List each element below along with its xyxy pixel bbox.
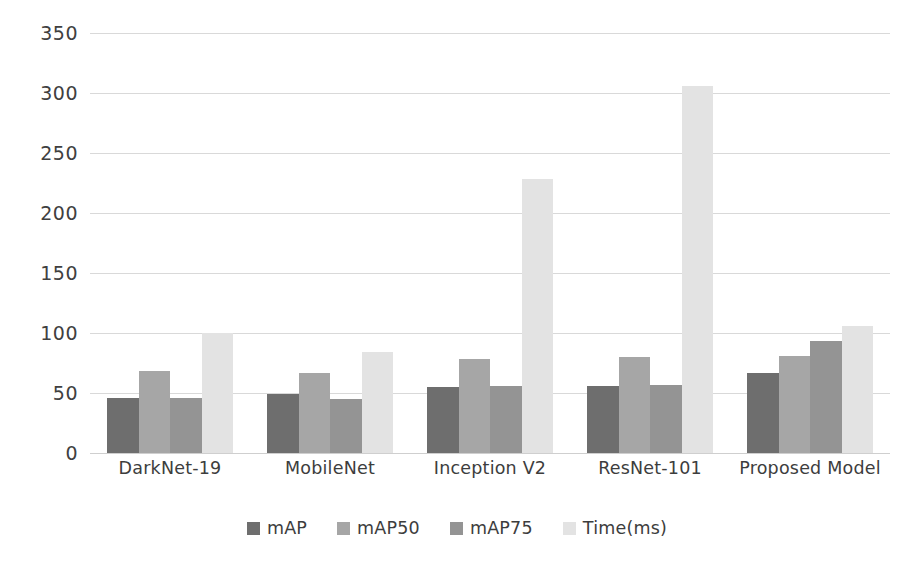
legend-label: mAP75 <box>470 518 533 538</box>
bar-group-bars <box>747 33 873 453</box>
bar <box>170 398 202 453</box>
legend-item[interactable]: mAP75 <box>450 518 533 538</box>
bar-group-bars <box>587 33 713 453</box>
bar <box>139 371 171 453</box>
axis-baseline <box>90 453 890 454</box>
y-axis-tick-label: 250 <box>40 142 78 164</box>
legend-item[interactable]: Time(ms) <box>563 518 667 538</box>
bar <box>330 399 362 453</box>
bar-group <box>250 33 410 453</box>
legend-item[interactable]: mAP <box>247 518 307 538</box>
bar <box>202 333 234 453</box>
legend-label: mAP <box>267 518 307 538</box>
bar <box>107 398 139 453</box>
bar-group <box>90 33 250 453</box>
chart-legend: mAPmAP50mAP75Time(ms) <box>0 518 914 538</box>
legend-swatch-icon <box>337 522 350 535</box>
bar-group-bars <box>107 33 233 453</box>
bar-group-bars <box>427 33 553 453</box>
bar <box>747 373 779 453</box>
y-axis-tick-label: 350 <box>40 22 78 44</box>
bar <box>267 394 299 453</box>
y-axis-tick-label: 50 <box>53 382 78 404</box>
bar <box>682 86 714 453</box>
bar-group <box>410 33 570 453</box>
bar <box>427 387 459 453</box>
y-axis: 050100150200250300350 <box>0 33 78 453</box>
y-axis-tick-label: 100 <box>40 322 78 344</box>
y-axis-tick-label: 300 <box>40 82 78 104</box>
bar <box>587 386 619 453</box>
legend-swatch-icon <box>450 522 463 535</box>
bar-group-bars <box>267 33 393 453</box>
x-axis-category-label: DarkNet-19 <box>90 458 250 492</box>
bar-groups <box>90 33 890 453</box>
bar-group <box>730 33 890 453</box>
x-axis-category-label: MobileNet <box>250 458 410 492</box>
bar <box>779 356 811 453</box>
y-axis-tick-label: 200 <box>40 202 78 224</box>
bar <box>842 326 874 453</box>
legend-swatch-icon <box>247 522 260 535</box>
x-axis-category-label: Proposed Model <box>730 458 890 492</box>
bar-chart: 050100150200250300350 DarkNet-19MobileNe… <box>0 0 914 569</box>
bar <box>362 352 394 453</box>
plot-area <box>90 33 890 453</box>
bar <box>810 341 842 453</box>
x-axis-category-label: ResNet-101 <box>570 458 730 492</box>
bar <box>459 359 491 453</box>
bar <box>490 386 522 453</box>
legend-item[interactable]: mAP50 <box>337 518 420 538</box>
bar-group <box>570 33 730 453</box>
x-axis: DarkNet-19MobileNetInception V2ResNet-10… <box>90 458 890 492</box>
y-axis-tick-label: 0 <box>65 442 78 464</box>
bar <box>619 357 651 453</box>
bar <box>650 385 682 453</box>
bar <box>299 373 331 453</box>
x-axis-category-label: Inception V2 <box>410 458 570 492</box>
legend-label: mAP50 <box>357 518 420 538</box>
legend-swatch-icon <box>563 522 576 535</box>
y-axis-tick-label: 150 <box>40 262 78 284</box>
bar <box>522 179 554 453</box>
legend-label: Time(ms) <box>583 518 667 538</box>
